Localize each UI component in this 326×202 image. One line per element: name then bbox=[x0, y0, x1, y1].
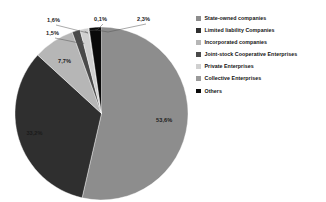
legend-item-label: State-owned companies bbox=[205, 14, 267, 22]
slice-value-label: 53,6% bbox=[156, 117, 172, 123]
legend-item: Others bbox=[196, 87, 326, 96]
legend-swatch-icon bbox=[196, 16, 201, 21]
slice-value-label: 0,1% bbox=[94, 16, 107, 22]
legend-item: Joint-stock Cooperative Enterprises bbox=[196, 50, 326, 59]
pie-chart-graphic bbox=[0, 0, 196, 202]
legend-item-label: Private Enterprises bbox=[205, 62, 254, 70]
slice-value-label: 2,3% bbox=[137, 16, 150, 22]
legend-item: Incorporated companies bbox=[196, 38, 326, 47]
legend-swatch-icon bbox=[196, 64, 201, 69]
legend-item: Private Enterprises bbox=[196, 62, 326, 71]
legend-swatch-icon bbox=[196, 28, 201, 33]
legend-swatch-icon bbox=[196, 89, 201, 94]
slice-value-label: 1,5% bbox=[46, 30, 59, 36]
legend-swatch-icon bbox=[196, 52, 201, 57]
legend-swatch-icon bbox=[196, 76, 201, 81]
chart-legend: State-owned companiesLimited liability C… bbox=[196, 14, 326, 99]
legend-item-label: Joint-stock Cooperative Enterprises bbox=[205, 50, 298, 58]
slice-value-label: 1,6% bbox=[47, 17, 60, 23]
legend-item-label: Limited liability Companies bbox=[205, 26, 275, 34]
slice-value-label: 33,2% bbox=[26, 130, 42, 136]
legend-item-label: Collective Enterprises bbox=[205, 74, 262, 82]
slice-value-label: 7,7% bbox=[58, 58, 71, 64]
legend-item: Limited liability Companies bbox=[196, 26, 326, 35]
legend-swatch-icon bbox=[196, 40, 201, 45]
legend-item-label: Others bbox=[205, 87, 222, 95]
pie-chart-figure: 53,6%33,2%7,7%1,5%1,6%0,1%2,3% State-own… bbox=[0, 0, 326, 202]
legend-item: State-owned companies bbox=[196, 14, 326, 23]
legend-item: Collective Enterprises bbox=[196, 74, 326, 83]
pie-slices-group bbox=[15, 27, 188, 200]
legend-item-label: Incorporated companies bbox=[205, 38, 268, 46]
